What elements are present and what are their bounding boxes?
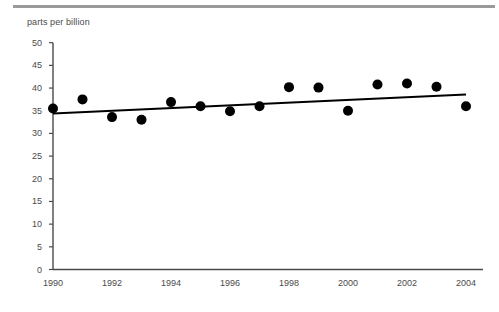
data-point xyxy=(432,82,442,92)
data-point xyxy=(461,101,471,111)
plot-svg xyxy=(0,0,499,312)
y-tick-label: 30 xyxy=(16,128,42,138)
scatter-plot: 05101520253035404550 1990199219941996199… xyxy=(0,0,499,312)
data-point xyxy=(284,82,294,92)
y-tick-label: 5 xyxy=(16,242,42,252)
data-point xyxy=(196,101,206,111)
data-points xyxy=(48,79,471,125)
data-point xyxy=(255,101,265,111)
data-point xyxy=(373,79,383,89)
x-tick-label: 1994 xyxy=(151,278,191,288)
y-tick-label: 0 xyxy=(16,265,42,275)
y-tick-label: 50 xyxy=(16,38,42,48)
y-tick-label: 40 xyxy=(16,83,42,93)
y-tick-label: 45 xyxy=(16,60,42,70)
data-point xyxy=(343,106,353,116)
y-tick-label: 25 xyxy=(16,151,42,161)
y-tick-label: 15 xyxy=(16,196,42,206)
x-tick-label: 2002 xyxy=(387,278,427,288)
y-tick-label: 10 xyxy=(16,219,42,229)
data-point xyxy=(402,79,412,89)
x-tick-label: 1996 xyxy=(210,278,250,288)
data-point xyxy=(166,97,176,107)
x-tick-label: 2000 xyxy=(328,278,368,288)
data-point xyxy=(225,106,235,116)
axes xyxy=(49,43,483,270)
y-tick-label: 20 xyxy=(16,174,42,184)
data-point xyxy=(78,94,88,104)
y-tick-label: 35 xyxy=(16,106,42,116)
x-tick-label: 1998 xyxy=(269,278,309,288)
x-tick-label: 1992 xyxy=(92,278,132,288)
data-point xyxy=(137,115,147,125)
data-point xyxy=(107,112,117,122)
x-tick-label: 1990 xyxy=(33,278,73,288)
x-tick-label: 2004 xyxy=(446,278,486,288)
data-point xyxy=(48,103,58,113)
data-point xyxy=(314,83,324,93)
